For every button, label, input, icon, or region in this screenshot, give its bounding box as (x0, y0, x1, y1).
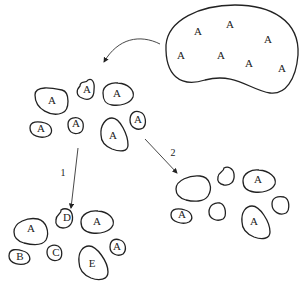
label-a: A (113, 240, 121, 252)
label-a: A (177, 49, 185, 61)
label-a: A (194, 25, 202, 37)
label-a: A (27, 222, 35, 234)
label-e: E (89, 257, 96, 269)
label-a: A (226, 18, 234, 30)
path-1-label: 1 (61, 167, 66, 178)
label-a: A (113, 87, 121, 99)
result-2-group: A A A (171, 167, 289, 238)
result-1-group: A D A B C E A (9, 209, 125, 280)
label-a: A (178, 208, 186, 220)
label-a: A (254, 173, 262, 185)
label-a: A (48, 94, 56, 106)
label-d: D (63, 211, 71, 223)
label-a: A (250, 215, 258, 227)
label-a: A (93, 215, 101, 227)
source-population: A A A A A A A (166, 5, 298, 93)
diagram-canvas: A A A A A A A A A A A A A A 1 2 A D A (0, 0, 307, 287)
initial-group: A A A A A A A (30, 79, 145, 150)
label-a: A (245, 57, 253, 69)
label-a: A (37, 122, 45, 134)
sampling-arrow (104, 39, 160, 62)
label-a: A (134, 113, 142, 125)
label-a: A (278, 62, 286, 74)
label-c: C (52, 246, 59, 258)
label-a: A (264, 33, 272, 45)
label-a: A (217, 49, 225, 61)
label-a: A (83, 83, 91, 95)
path-2-label: 2 (171, 147, 176, 158)
label-a: A (72, 117, 80, 129)
label-a: A (109, 129, 117, 141)
label-b: B (16, 250, 23, 262)
path-1-arrow (71, 148, 78, 208)
